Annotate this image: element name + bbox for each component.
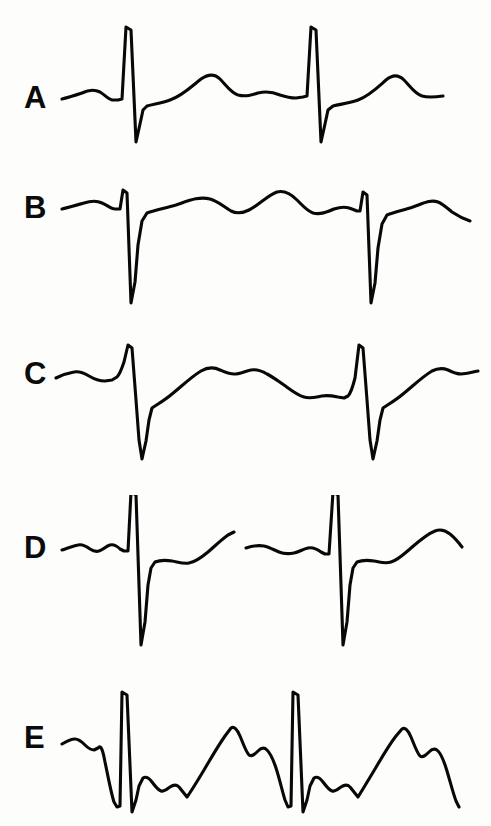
ecg-strip-b: B <box>0 165 491 330</box>
ecg-waveform-path-a <box>62 27 443 142</box>
ecg-waveform-path-c <box>56 345 478 459</box>
ecg-trace-b <box>0 165 491 330</box>
ecg-strip-a: A <box>0 0 491 165</box>
ecg-waveform-path-d <box>62 495 462 645</box>
ecg-waveform-path-e <box>62 692 459 812</box>
ecg-strip-c: C <box>0 330 491 495</box>
ecg-trace-d <box>0 495 491 670</box>
ecg-trace-a <box>0 0 491 165</box>
ecg-figure: A B C D E <box>0 0 491 826</box>
ecg-trace-c <box>0 330 491 495</box>
ecg-strip-e: E <box>0 670 491 826</box>
ecg-waveform-path-b <box>62 190 470 303</box>
ecg-strip-d: D <box>0 495 491 670</box>
ecg-trace-e <box>0 670 491 826</box>
